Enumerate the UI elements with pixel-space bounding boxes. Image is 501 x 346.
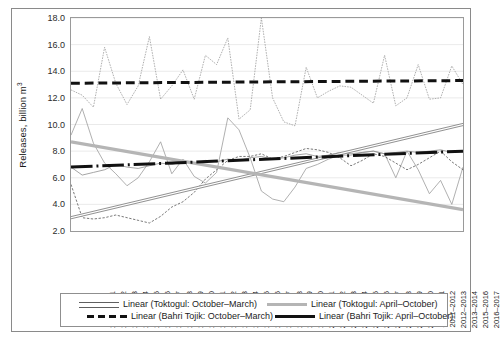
legend-swatch-black-dashed <box>87 311 127 321</box>
legend-label: Linear (Toktogul: April–October) <box>311 299 438 309</box>
x-axis-tick-label: 2016–2017 <box>492 291 501 328</box>
legend-item-bahri-tojik-apr-oct[interactable]: Linear (Bahri Tojik: April–October) <box>275 311 453 321</box>
trendline-1 <box>71 142 463 210</box>
legend-row-2: Linear (Bahri Tojik: October–March) Line… <box>65 311 443 321</box>
data-series-1 <box>71 18 463 126</box>
y-axis-tick-label: 2.0 <box>52 226 65 236</box>
legend-item-toktogul-oct-mar[interactable]: Linear (Toktogul: October–March) <box>79 299 265 309</box>
x-axis-tick-label: 2011–2012 <box>447 291 456 328</box>
x-axis-tick-label: 2013–2014 <box>470 291 479 328</box>
trendline-0-edge-top <box>71 123 463 216</box>
y-axis-title-superscript: 3 <box>16 82 23 86</box>
y-axis-tick-label: 14.0 <box>47 66 65 76</box>
y-axis-tick-label: 8.0 <box>52 146 65 156</box>
y-axis-tick-label: 10.0 <box>47 120 65 130</box>
y-axis-tick-label: 6.0 <box>52 173 65 183</box>
chart-legend: Linear (Toktogul: October–March) Linear … <box>60 293 448 327</box>
legend-swatch-black-solid <box>275 311 315 321</box>
y-axis-title: Releases, billion m3 <box>10 9 34 241</box>
legend-label: Linear (Toktogul: October–March) <box>123 299 257 309</box>
x-axis-tick-label: 2012–2013 <box>459 291 468 328</box>
legend-label: Linear (Bahri Tojik: October–March) <box>131 311 273 321</box>
legend-label: Linear (Bahri Tojik: April–October) <box>319 311 453 321</box>
trendline-0-fill <box>71 125 463 218</box>
x-axis-tick-label: 2015–2016 <box>481 291 490 328</box>
y-axis-tick-label: 16.0 <box>47 40 65 50</box>
x-axis-tick-labels: 1980–19811981–19821982–19831983–19841984… <box>70 233 464 291</box>
plot-canvas <box>71 18 463 231</box>
trendline-0-edge-bottom <box>71 126 463 219</box>
legend-row-1: Linear (Toktogul: October–March) Linear … <box>65 299 443 309</box>
legend-item-bahri-tojik-oct-mar[interactable]: Linear (Bahri Tojik: October–March) <box>87 311 273 321</box>
y-axis-tick-label: 12.0 <box>47 93 65 103</box>
trendline-2 <box>71 81 463 84</box>
y-axis-tick-label: 18.0 <box>47 13 65 23</box>
legend-swatch-thick-gray <box>267 299 307 309</box>
chart-figure: Releases, billion m3 18.016.014.012.010.… <box>11 8 471 332</box>
y-axis-title-text: Releases, billion m <box>17 86 28 168</box>
y-axis-tick-label: 4.0 <box>52 199 65 209</box>
plot-area <box>70 17 464 232</box>
legend-swatch-outlined-thin <box>79 299 119 309</box>
legend-item-toktogul-apr-oct[interactable]: Linear (Toktogul: April–October) <box>267 299 438 309</box>
y-axis-tick-labels: 18.016.014.012.010.08.06.04.02.0 <box>34 9 68 241</box>
